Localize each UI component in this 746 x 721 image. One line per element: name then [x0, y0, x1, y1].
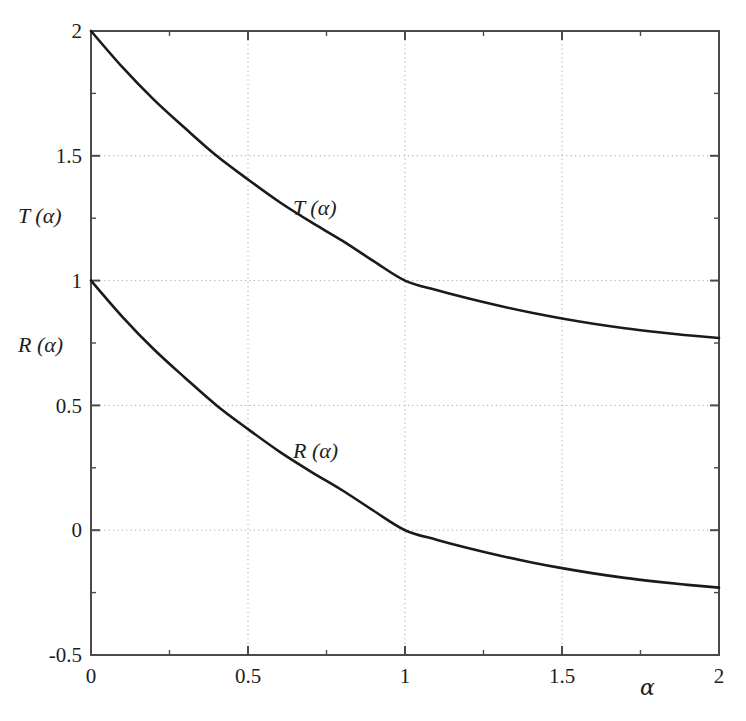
curve-label-R: R (α): [293, 440, 338, 462]
curve-label-T: T (α): [293, 197, 337, 219]
x-axis-label: α: [640, 677, 655, 699]
xtick-label-0p5: 0.5: [218, 666, 278, 687]
xtick-label-2: 2: [689, 666, 746, 687]
curve-t: [91, 31, 719, 338]
ytick-label-1: 1: [10, 271, 82, 292]
grid-lines: [91, 31, 719, 655]
ytick-label-0: 0: [10, 520, 82, 541]
plot-canvas: [0, 0, 746, 721]
ytick-label-2: 2: [10, 21, 82, 42]
ytick-label-neg0p5: -0.5: [10, 645, 82, 666]
ytick-label-1p5: 1.5: [10, 146, 82, 167]
xtick-label-1p5: 1.5: [532, 666, 592, 687]
xtick-label-1: 1: [375, 666, 435, 687]
y-axis-label-T: T (α): [18, 205, 62, 227]
xtick-label-0: 0: [61, 666, 121, 687]
chart-figure: 2 1.5 1 0.5 0 -0.5 T (α) R (α) 0 0.5 1 1…: [0, 0, 746, 721]
ytick-label-0p5: 0.5: [10, 396, 82, 417]
y-axis-label-R: R (α): [18, 334, 63, 356]
